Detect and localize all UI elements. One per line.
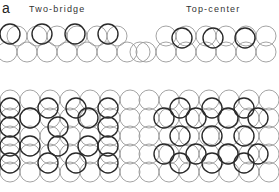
adsorbate-atom (248, 108, 268, 128)
adsorbate-atom (234, 126, 254, 146)
substrate-atom (136, 42, 156, 62)
adsorbate-atom (65, 24, 85, 44)
substrate-atom (20, 162, 40, 182)
adsorbate-atom (154, 144, 174, 164)
substrate-atom (120, 126, 140, 146)
substrate-atom (130, 42, 150, 62)
substrate-atom (259, 162, 279, 182)
substrate-atom (60, 162, 80, 182)
substrate-atom (259, 144, 279, 164)
substrate-atom (179, 90, 199, 110)
substrate-atom (179, 126, 199, 146)
substrate-atom (139, 126, 159, 146)
substrate-atom (196, 26, 216, 46)
substrate-atom (239, 126, 259, 146)
adsorbate-atom (78, 108, 98, 128)
atomic-lattice-diagram (0, 0, 279, 192)
substrate-atom (77, 42, 97, 62)
adsorbate-atom (66, 153, 86, 173)
substrate-atom (120, 144, 140, 164)
substrate-atom (139, 162, 159, 182)
substrate-atom (159, 126, 179, 146)
substrate-atom (20, 90, 40, 110)
substrate-atom (120, 90, 140, 110)
substrate-atom (259, 126, 279, 146)
substrate-atom (159, 108, 179, 128)
substrate-atom (156, 42, 176, 62)
adsorbate-atom (248, 144, 268, 164)
substrate-atom (117, 42, 137, 62)
substrate-atom (216, 26, 236, 46)
substrate-atom (0, 42, 17, 62)
substrate-atom (256, 42, 276, 62)
adsorbate-atom (20, 108, 40, 128)
substrate-atom (259, 108, 279, 128)
substrate-atom (120, 162, 140, 182)
adsorbate-atom (218, 108, 238, 128)
substrate-atom (176, 42, 196, 62)
substrate-atom (256, 26, 276, 46)
substrate-atom (80, 162, 100, 182)
substrate-atom (120, 108, 140, 128)
substrate-atom (37, 42, 57, 62)
adsorbate-atom (235, 28, 255, 48)
adsorbate-atom (154, 108, 174, 128)
substrate-atom (139, 90, 159, 110)
adsorbate-atom (0, 117, 20, 137)
substrate-atom (179, 162, 199, 182)
substrate-atom (0, 162, 20, 182)
substrate-atom (17, 42, 37, 62)
adsorbate-atom (0, 24, 20, 44)
substrate-atom (57, 42, 77, 62)
substrate-atom (216, 42, 236, 62)
substrate-atom (7, 26, 27, 46)
substrate-atom (159, 90, 179, 110)
adsorbate-atom (218, 144, 238, 164)
substrate-atom (80, 108, 100, 128)
substrate-atom (259, 90, 279, 110)
substrate-atom (97, 42, 117, 62)
adsorbate-atom (170, 126, 190, 146)
